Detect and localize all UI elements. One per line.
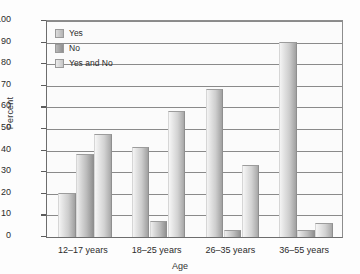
legend-swatch-icon — [55, 59, 64, 68]
bar-yes-and-no — [168, 111, 186, 237]
x-axis-title: Age — [0, 261, 360, 271]
bar-no — [224, 230, 242, 237]
gridline — [47, 151, 342, 152]
bar-yes-and-no — [242, 165, 260, 237]
x-axis-group-label: 26–35 years — [194, 245, 268, 255]
x-axis-group-label: 12–17 years — [46, 245, 120, 255]
legend-item-yes: Yes — [55, 27, 113, 40]
bar-no — [150, 221, 168, 237]
bar-no — [76, 154, 94, 237]
y-axis-tick-label: 100 — [0, 15, 11, 24]
legend-swatch-icon — [55, 29, 64, 38]
y-axis-tick-label: 80 — [0, 58, 11, 67]
legend-item-yes-and-no: Yes and No — [55, 57, 113, 70]
gridline — [47, 86, 342, 87]
bar-yes — [58, 193, 76, 237]
gridline — [47, 107, 342, 108]
bar-yes — [206, 89, 224, 237]
gridline — [47, 129, 342, 130]
plot-area: Yes No Yes and No — [46, 20, 343, 238]
y-axis-tick-label: 0 — [0, 231, 11, 240]
bar-yes-and-no — [94, 134, 112, 237]
bar-chart: Percent 0102030405060708090100 Yes No Ye… — [0, 0, 360, 274]
y-axis-tick-label: 10 — [0, 209, 11, 218]
y-axis-tick-label: 30 — [0, 166, 11, 175]
y-axis-tick-label: 50 — [0, 123, 11, 132]
y-axis-tick-label: 60 — [0, 101, 11, 110]
bar-yes — [279, 42, 297, 237]
legend-item-label: Yes and No — [69, 59, 113, 68]
y-axis-tick-label: 90 — [0, 37, 11, 46]
bar-no — [297, 230, 315, 237]
legend-item-no: No — [55, 42, 113, 55]
gridline — [47, 21, 342, 22]
x-axis-group-label: 18–25 years — [120, 245, 194, 255]
legend-item-label: No — [69, 44, 80, 53]
y-axis-tick-label: 70 — [0, 80, 11, 89]
x-axis-group-label: 36–55 years — [267, 245, 341, 255]
bar-yes-and-no — [315, 223, 333, 237]
legend-item-label: Yes — [69, 29, 83, 38]
y-axis-tick-label: 20 — [0, 188, 11, 197]
legend-swatch-icon — [55, 44, 64, 53]
y-axis-tick-label: 40 — [0, 145, 11, 154]
legend: Yes No Yes and No — [55, 27, 113, 72]
bar-yes — [132, 147, 150, 237]
